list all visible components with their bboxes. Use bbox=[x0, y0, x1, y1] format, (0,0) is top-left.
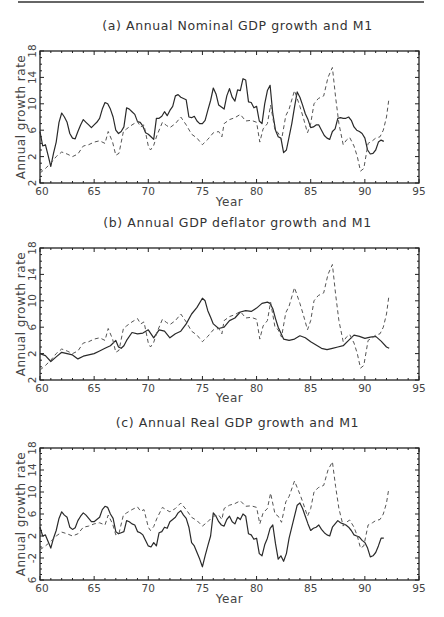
panel-b: (b) Annual GDP deflator growth and M1606… bbox=[14, 215, 426, 405]
x-tick-label: 75 bbox=[196, 382, 209, 394]
y-axis-label: Annual growth rate bbox=[14, 452, 28, 576]
x-tick-label: 70 bbox=[142, 582, 155, 594]
x-tick-label: 80 bbox=[250, 185, 263, 197]
panel-a: (a) Annual Nominal GDP growth and M16065… bbox=[14, 18, 426, 209]
x-tick-label: 70 bbox=[142, 185, 155, 197]
x-tick-label: 95 bbox=[412, 582, 425, 594]
x-tick-label: 85 bbox=[304, 582, 317, 594]
y-tick-label: 2 bbox=[26, 180, 38, 187]
y-axis-label: Annual growth rate bbox=[14, 252, 28, 376]
x-axis-label: Year bbox=[215, 391, 243, 405]
y-tick-label: 6 bbox=[26, 576, 38, 583]
plot-frame bbox=[40, 448, 419, 580]
x-tick-label: 90 bbox=[358, 582, 371, 594]
chart-figure: (a) Annual Nominal GDP growth and M16065… bbox=[0, 0, 444, 617]
plot-frame bbox=[40, 248, 419, 380]
x-tick-label: 75 bbox=[196, 582, 209, 594]
x-tick-label: 85 bbox=[304, 185, 317, 197]
y-tick-label: 2 bbox=[26, 377, 38, 384]
x-tick-label: 85 bbox=[304, 382, 317, 394]
panel-c: (c) Annual Real GDP growth and M16065707… bbox=[14, 415, 426, 606]
series-m1-growth bbox=[40, 68, 389, 174]
series-gdp-growth bbox=[40, 79, 384, 167]
series-gdp-growth bbox=[40, 298, 389, 361]
series-m1-growth bbox=[40, 462, 389, 550]
x-tick-label: 90 bbox=[358, 382, 371, 394]
panel-title: (b) Annual GDP deflator growth and M1 bbox=[103, 215, 372, 230]
series-gdp-growth bbox=[40, 503, 384, 567]
x-axis-label: Year bbox=[215, 592, 243, 606]
x-tick-label: 80 bbox=[250, 382, 263, 394]
x-tick-label: 70 bbox=[142, 382, 155, 394]
x-tick-label: 65 bbox=[87, 185, 100, 197]
plot-frame bbox=[40, 51, 419, 183]
x-tick-label: 65 bbox=[87, 582, 100, 594]
x-tick-label: 95 bbox=[412, 382, 425, 394]
x-tick-label: 80 bbox=[250, 582, 263, 594]
x-tick-label: 95 bbox=[412, 185, 425, 197]
x-tick-label: 65 bbox=[87, 382, 100, 394]
panel-title: (c) Annual Real GDP growth and M1 bbox=[116, 415, 359, 430]
x-axis-label: Year bbox=[215, 195, 243, 209]
panel-title: (a) Annual Nominal GDP growth and M1 bbox=[102, 18, 373, 33]
x-tick-label: 90 bbox=[358, 185, 371, 197]
x-tick-label: 75 bbox=[196, 185, 209, 197]
y-axis-label: Annual growth rate bbox=[14, 55, 28, 179]
